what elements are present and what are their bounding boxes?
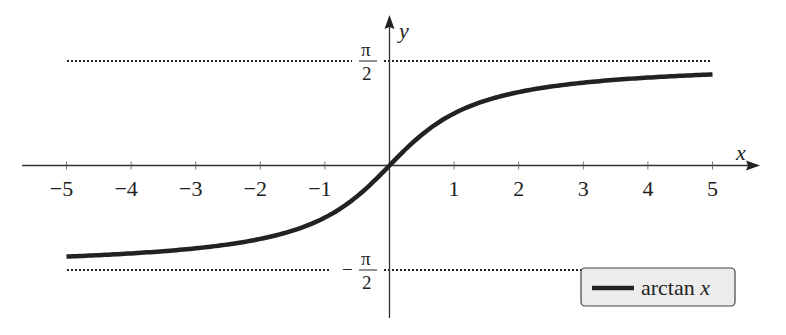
x-axis-label: x <box>735 140 746 165</box>
neg-pi-half-label: − π 2 <box>342 248 377 293</box>
pi-numerator: π <box>361 39 371 60</box>
pi-denominator: 2 <box>362 272 372 293</box>
x-tick-label: 4 <box>642 176 653 201</box>
x-tick-label: 5 <box>707 176 718 201</box>
pi-numerator: π <box>361 248 371 269</box>
legend: arctan x <box>581 268 735 306</box>
x-ticks: −5−4−3−2−112345 <box>50 162 718 201</box>
x-tick-label: 2 <box>513 176 524 201</box>
x-tick-label: −3 <box>179 176 202 201</box>
x-tick-label: −2 <box>244 176 267 201</box>
chart-root: −5−4−3−2−112345 x y π 2 − π 2 arctan x <box>0 0 786 335</box>
legend-label: arctan x <box>641 275 710 300</box>
arctan-plot: −5−4−3−2−112345 x y π 2 − π 2 arctan x <box>0 0 786 335</box>
minus-sign: − <box>342 259 353 280</box>
y-axis-label: y <box>397 18 409 43</box>
y-axis-arrow-icon <box>385 15 395 29</box>
x-axis-arrow-icon <box>746 161 760 171</box>
x-tick-label: −5 <box>50 176 73 201</box>
x-tick-label: 1 <box>449 176 460 201</box>
pi-denominator: 2 <box>362 63 372 84</box>
pi-half-label: π 2 <box>359 39 377 84</box>
x-tick-label: −1 <box>308 176 331 201</box>
x-tick-label: 3 <box>578 176 589 201</box>
x-tick-label: −4 <box>114 176 137 201</box>
